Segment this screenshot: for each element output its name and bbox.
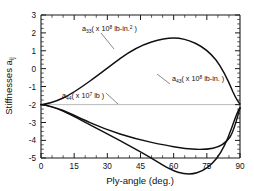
y-tick-label: 0 (31, 65, 36, 74)
y-tick-label: -1 (29, 83, 37, 92)
y-tick-label: 3 (31, 11, 36, 20)
y-tick-label: -3 (29, 119, 37, 128)
x-axis-title: Ply-angle (deg.) (106, 175, 174, 186)
y-tick-label: -5 (29, 154, 37, 163)
x-tick-label: 45 (136, 162, 146, 171)
y-tick-label: -4 (29, 136, 37, 145)
x-tick-label: 15 (70, 162, 80, 171)
stiffness-ply-angle-chart: 3 2 1 0 -1 -2 -3 -4 -5 0 15 30 45 60 75 … (0, 0, 254, 191)
y-tick-label: 1 (31, 47, 36, 56)
x-tick-label: 0 (39, 162, 44, 171)
x-tick-label: 90 (235, 162, 245, 171)
y-tick-label: 2 (31, 29, 36, 38)
chart-figure: 3 2 1 0 -1 -2 -3 -4 -5 0 15 30 45 60 75 … (0, 0, 254, 191)
x-tick-label: 30 (103, 162, 113, 171)
y-tick-label: -2 (29, 101, 37, 110)
